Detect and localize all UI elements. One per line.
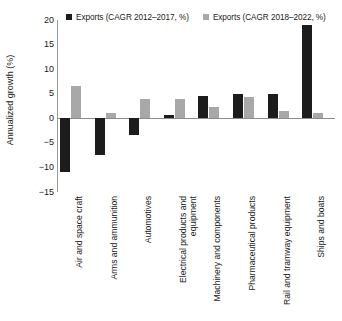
x-axis-category-label: Rail and tramway equipment bbox=[283, 196, 309, 319]
x-axis-category-text: Air and space craft bbox=[75, 196, 85, 268]
bar-group bbox=[196, 20, 231, 192]
y-axis-tick-label: 0 bbox=[24, 114, 54, 123]
bar-series-2012-2017 bbox=[164, 115, 174, 118]
bar-series-2012-2017 bbox=[95, 118, 105, 155]
x-axis-category-text: Electrical products and equipment bbox=[179, 196, 198, 319]
x-axis-category-label: Machinery and components bbox=[213, 196, 239, 319]
x-axis-category-label: Air and space craft bbox=[75, 196, 101, 319]
bar-group bbox=[127, 20, 162, 192]
bar-series-2018-2022 bbox=[140, 99, 150, 119]
bar-group bbox=[266, 20, 301, 192]
y-axis-tick-label: −15 bbox=[24, 188, 54, 197]
x-axis-category-text: Automotives bbox=[144, 196, 154, 243]
bar-series-2018-2022 bbox=[175, 99, 185, 119]
bar-series-2018-2022 bbox=[244, 97, 254, 118]
bar-chart: Exports (CAGR 2012–2017, %) Exports (CAG… bbox=[0, 0, 342, 321]
bar-group bbox=[93, 20, 128, 192]
bar-series-2012-2017 bbox=[233, 94, 243, 119]
plot-area bbox=[57, 20, 335, 192]
bar-series-2018-2022 bbox=[279, 111, 289, 118]
y-axis-tick-label: −10 bbox=[24, 163, 54, 172]
bar-group bbox=[58, 20, 93, 192]
x-axis-category-label: Ships and boats bbox=[317, 196, 342, 319]
x-axis-labels: Air and space craftArms and ammunitionAu… bbox=[58, 196, 335, 319]
bar-series-2018-2022 bbox=[106, 113, 116, 118]
x-axis-category-text: Machinery and components bbox=[213, 196, 223, 302]
bar-series-2012-2017 bbox=[60, 118, 70, 172]
x-axis-category-text: Rail and tramway equipment bbox=[283, 196, 293, 305]
y-axis-tick-label: 20 bbox=[24, 16, 54, 25]
x-axis-category-text: Ships and boats bbox=[317, 196, 327, 258]
bar-group bbox=[162, 20, 197, 192]
bar-groups bbox=[58, 20, 335, 192]
y-axis-title-text: Annualized growth (%) bbox=[5, 55, 15, 146]
x-axis-category-text: Arms and ammunition bbox=[110, 196, 120, 280]
y-axis-title: Annualized growth (%) bbox=[2, 0, 18, 200]
y-axis-tick-label: 5 bbox=[24, 89, 54, 98]
bar-series-2012-2017 bbox=[129, 118, 139, 135]
bar-group bbox=[300, 20, 335, 192]
x-axis-category-label: Arms and ammunition bbox=[110, 196, 136, 319]
bar-group bbox=[231, 20, 266, 192]
x-axis-category-label: Automotives bbox=[144, 196, 170, 319]
x-axis-category-text: Pharmaceutical products bbox=[248, 196, 258, 291]
bar-series-2012-2017 bbox=[268, 94, 278, 119]
x-axis-category-label: Pharmaceutical products bbox=[248, 196, 274, 319]
y-axis-tick-label: −5 bbox=[24, 138, 54, 147]
y-axis-tick-label: 10 bbox=[24, 65, 54, 74]
bar-series-2018-2022 bbox=[209, 107, 219, 118]
bar-series-2012-2017 bbox=[302, 25, 312, 118]
bar-series-2018-2022 bbox=[71, 86, 81, 118]
y-axis-tick-label: 15 bbox=[24, 40, 54, 49]
y-axis-ticks: 20151050−5−10−15 bbox=[20, 20, 54, 192]
bar-series-2018-2022 bbox=[313, 113, 323, 118]
x-axis-category-label: Electrical products and equipment bbox=[179, 196, 205, 319]
bar-series-2012-2017 bbox=[198, 96, 208, 118]
